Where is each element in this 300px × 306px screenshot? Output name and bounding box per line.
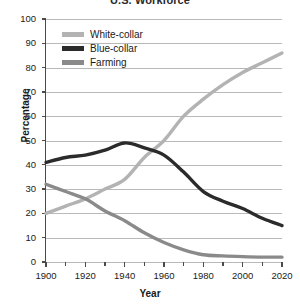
y-axis-title: Percentage [20, 71, 31, 161]
x-tick-label: 1900 [26, 270, 66, 281]
x-tick-label: 1980 [183, 270, 223, 281]
chart-title: U.S. Workforce [0, 0, 300, 6]
x-tick-mark-major [124, 262, 125, 267]
y-tick-label: 20 [8, 208, 36, 218]
gridline [46, 165, 282, 166]
x-axis-title: Year [0, 288, 300, 299]
y-tick-mark [42, 67, 46, 68]
x-tick-mark-minor [144, 262, 145, 266]
y-tick-label: 0 [8, 257, 36, 267]
legend-swatch [62, 32, 84, 37]
x-tick-mark-minor [262, 262, 263, 266]
legend-item-farming[interactable]: Farming [62, 56, 143, 69]
y-tick-label: 30 [8, 184, 36, 194]
x-tick-mark-major [163, 262, 164, 267]
y-tick-label: 100 [8, 14, 36, 24]
x-tick-mark-minor [183, 262, 184, 266]
gridline [46, 238, 282, 239]
y-tick-mark [42, 18, 46, 19]
gridline [46, 19, 282, 20]
x-tick-label: 1940 [105, 270, 145, 281]
y-tick-mark [42, 91, 46, 92]
legend-label: Blue-collar [90, 43, 137, 54]
x-tick-label: 2000 [223, 270, 263, 281]
y-tick-mark [42, 43, 46, 44]
y-tick-mark [42, 164, 46, 165]
y-tick-label: 10 [8, 233, 36, 243]
legend-swatch [62, 60, 84, 65]
gridline [46, 92, 282, 93]
y-tick-label: 40 [8, 160, 36, 170]
y-tick-mark [42, 188, 46, 189]
legend-swatch [62, 46, 84, 51]
y-tick-mark [42, 116, 46, 117]
legend-item-blue-collar[interactable]: Blue-collar [62, 42, 143, 55]
y-tick-label: 90 [8, 38, 36, 48]
gridline [46, 116, 282, 117]
y-tick-mark [42, 213, 46, 214]
x-tick-mark-minor [65, 262, 66, 266]
x-tick-mark-major [85, 262, 86, 267]
gridline [46, 189, 282, 190]
x-tick-mark-minor [222, 262, 223, 266]
x-tick-mark-major [242, 262, 243, 267]
y-tick-mark [42, 237, 46, 238]
legend-label: White-collar [90, 29, 143, 40]
legend-label: Farming [90, 57, 127, 68]
x-tick-mark-major [45, 262, 46, 267]
x-tick-mark-major [281, 262, 282, 267]
x-tick-mark-minor [104, 262, 105, 266]
gridline [46, 213, 282, 214]
gridline [46, 141, 282, 142]
x-tick-label: 2020 [262, 270, 300, 281]
chart-container: U.S. Workforce 0102030405060708090100 Pe… [0, 0, 300, 306]
x-tick-label: 1920 [65, 270, 105, 281]
x-tick-mark-major [203, 262, 204, 267]
x-tick-label: 1960 [144, 270, 184, 281]
chart-legend: White-collarBlue-collarFarming [62, 28, 143, 70]
legend-item-white-collar[interactable]: White-collar [62, 28, 143, 41]
y-tick-mark [42, 140, 46, 141]
